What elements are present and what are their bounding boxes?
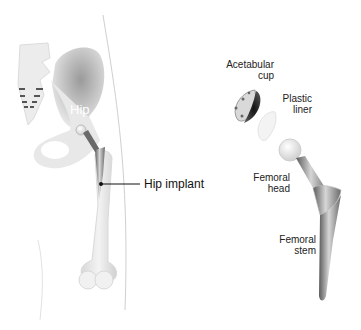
sacrum bbox=[18, 43, 50, 125]
diagram-graphics bbox=[0, 0, 361, 330]
femoral-stem-label: Femoral stem bbox=[274, 234, 316, 256]
femoral-stem bbox=[296, 156, 341, 301]
femoral-head-label: Femoral head bbox=[248, 172, 290, 194]
acetabular-cup-label: Acetabular cup bbox=[226, 59, 274, 81]
acetabular-cup bbox=[235, 90, 261, 123]
hip-implant-diagram: Hip Hip implant Acetabular cup Plastic l… bbox=[0, 0, 361, 330]
plastic-liner-label: Plastic liner bbox=[272, 93, 312, 115]
hip-implant-label: Hip implant bbox=[144, 177, 204, 191]
plastic-liner bbox=[258, 112, 276, 141]
hip-region-label: Hip bbox=[70, 102, 90, 117]
